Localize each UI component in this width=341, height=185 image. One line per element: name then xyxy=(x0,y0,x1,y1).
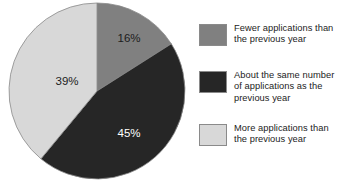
legend-label-fewer-applications: Fewer applications than the previous yea… xyxy=(234,23,333,46)
legend-item-more-applications[interactable]: More applications than the previous year xyxy=(199,123,329,146)
legend-swatch-about-the-same xyxy=(199,71,227,93)
chart-legend: Fewer applications than the previous yea… xyxy=(199,0,341,185)
legend-swatch-more-applications xyxy=(199,124,227,146)
legend-item-about-the-same[interactable]: About the same number of applications as… xyxy=(199,70,334,104)
pie-slice-value-label: 16% xyxy=(117,32,140,44)
legend-label-more-applications: More applications than the previous year xyxy=(234,123,329,146)
legend-swatch-fewer-applications xyxy=(199,24,227,46)
pie-chart-plot-area: 16%45%39% xyxy=(5,0,191,185)
legend-item-fewer-applications[interactable]: Fewer applications than the previous yea… xyxy=(199,23,333,46)
pie-slice-group xyxy=(9,3,185,179)
legend-label-about-the-same: About the same number of applications as… xyxy=(234,70,334,104)
pie-slice-value-label: 45% xyxy=(117,127,140,139)
pie-chart-figure: 16%45%39% Fewer applications than the pr… xyxy=(0,0,341,185)
pie-slice-value-label: 39% xyxy=(55,75,78,87)
pie-chart-svg: 16%45%39% xyxy=(5,0,191,185)
